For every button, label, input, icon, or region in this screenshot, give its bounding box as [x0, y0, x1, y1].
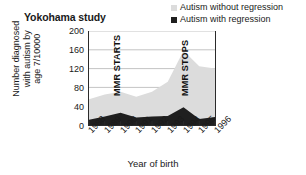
legend-item-without-regression[interactable]: Autism without regression — [171, 2, 283, 13]
y-axis-title-line1: Number diagnosed — [11, 21, 21, 97]
y-axis-title: Number diagnosed with autism by age 7/10… — [11, 3, 43, 115]
y-axis-title-line2: with autism by — [22, 30, 32, 87]
legend-label-without-regression: Autism without regression — [180, 2, 283, 13]
y-tick-160: 160 — [58, 46, 84, 54]
y-tick-120: 120 — [58, 65, 84, 73]
y-tick-0: 0 — [58, 122, 84, 130]
y-tick-40: 40 — [58, 103, 84, 111]
legend-label-with-regression: Autism with regression — [180, 14, 271, 25]
y-tick-80: 80 — [58, 84, 84, 92]
x-axis-title: Year of birth — [88, 158, 218, 169]
annotation-mmr-stops: MMR STOPS — [180, 40, 190, 96]
legend-item-with-regression[interactable]: Autism with regression — [171, 14, 283, 25]
chart-legend: Autism without regression Autism with re… — [171, 2, 283, 26]
area-chart-svg — [89, 31, 215, 125]
chart-figure: Yokohama study Autism without regression… — [0, 0, 306, 175]
plot-area — [88, 31, 216, 126]
legend-swatch-dark-icon — [171, 17, 177, 23]
legend-swatch-light-icon — [171, 5, 177, 11]
y-axis-title-line3: age 7/10000 — [32, 34, 42, 84]
y-axis-ticks: 200 160 120 80 40 0 — [56, 0, 84, 175]
x-axis-ticks: 198819891990199119921993199419951996 — [88, 126, 218, 156]
annotation-mmr-starts: MMR STARTS — [112, 35, 122, 96]
y-tick-200: 200 — [58, 27, 84, 35]
